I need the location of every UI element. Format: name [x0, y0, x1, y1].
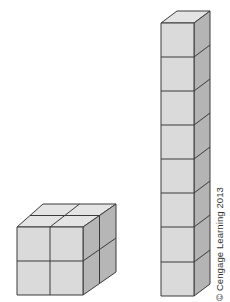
cube-2x2x2 — [17, 204, 116, 295]
tower-1x1x8 — [161, 11, 210, 296]
figure-canvas — [0, 0, 230, 302]
copyright-credit: © Cengage Learning 2013 — [214, 187, 225, 301]
